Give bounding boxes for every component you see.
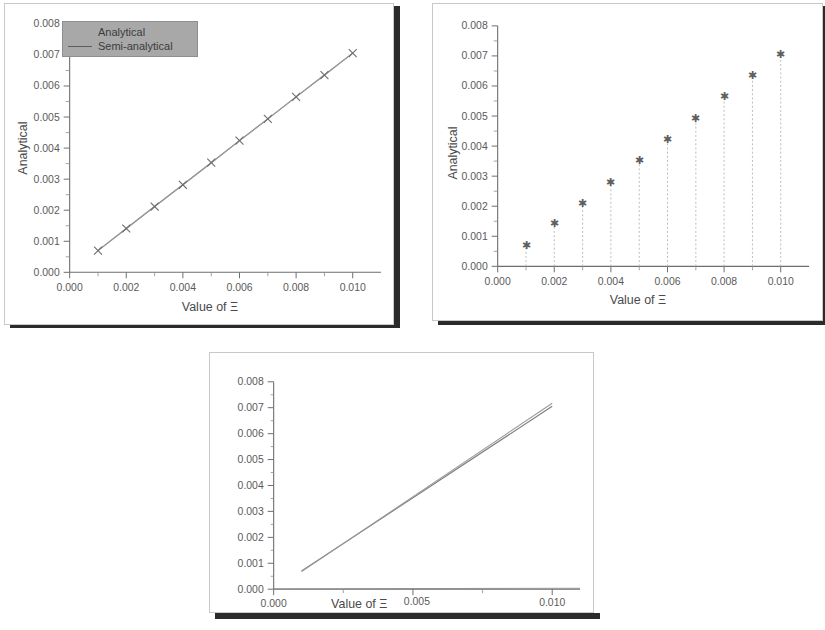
legend-entry: Semi-analytical <box>67 39 191 53</box>
y-ticklabel: 0.008 <box>34 18 60 29</box>
x-ticklabel: 0.004 <box>598 276 624 287</box>
y-ticklabel: 0.002 <box>34 205 60 216</box>
plot-area-3: 0.000 0.001 0.002 0.003 0.004 0.005 0.00… <box>210 353 593 612</box>
x-ticklabel: 0.002 <box>113 282 139 293</box>
svg-text:✱: ✱ <box>578 197 587 209</box>
y-ticklabel: 0.001 <box>34 236 60 247</box>
x-ticklabels-1: 0.000 0.002 0.004 0.006 0.008 0.010 <box>57 282 366 293</box>
y-ticklabel: 0.000 <box>238 584 264 595</box>
y-ticks-1 <box>64 24 70 272</box>
x-ticklabel: 0.008 <box>283 282 309 293</box>
svg-text:✱: ✱ <box>748 69 757 81</box>
y-ticklabels-1: 0.000 0.001 0.002 0.003 0.004 0.005 0.00… <box>34 18 60 277</box>
x-ticklabel: 0.010 <box>539 597 565 608</box>
y-ticklabel: 0.008 <box>462 20 488 31</box>
y-ticklabel: 0.003 <box>34 174 60 185</box>
y-ticklabel: 0.003 <box>462 171 488 182</box>
legend-label: Semi-analytical <box>98 40 173 52</box>
x-ticklabels-3: 0.000 0.005 0.010 <box>261 596 566 609</box>
y-ticklabel: 0.004 <box>238 480 264 491</box>
y-axis-title-2: Analytical <box>446 127 460 180</box>
svg-text:✱: ✱ <box>522 239 531 251</box>
y-ticklabel: 0.004 <box>34 143 60 154</box>
svg-text:✱: ✱ <box>663 133 672 145</box>
legend-entry: Analytical <box>67 25 191 39</box>
svg-text:✱: ✱ <box>635 154 644 166</box>
y-ticklabel: 0.002 <box>462 201 488 212</box>
y-ticklabel: 0.000 <box>462 261 488 272</box>
y-ticklabel: 0.006 <box>462 80 488 91</box>
y-axis-title-1: Analytical <box>16 122 30 175</box>
x-ticklabel: 0.000 <box>57 282 83 293</box>
chart-2-markers: ✱ ✱ ✱ ✱ ✱ ✱ ✱ ✱ ✱ ✱ <box>522 48 786 251</box>
chart-2-svg: 0.000 0.001 0.002 0.003 0.004 0.005 0.00… <box>433 4 822 320</box>
y-ticklabel: 0.005 <box>462 111 488 122</box>
y-ticklabel: 0.002 <box>238 532 264 543</box>
y-ticklabel: 0.007 <box>34 49 60 60</box>
y-ticklabel: 0.003 <box>238 506 264 517</box>
y-ticklabel: 0.000 <box>34 267 60 278</box>
x-ticklabel: 0.006 <box>226 282 252 293</box>
x-axis-title-3: Value of Ξ <box>331 597 387 611</box>
y-ticks-2 <box>492 26 498 266</box>
x-ticklabel: 0.002 <box>541 276 567 287</box>
x-ticklabels-2: 0.000 0.002 0.004 0.006 0.008 0.010 <box>485 276 794 287</box>
x-ticklabel: 0.000 <box>485 276 511 287</box>
y-ticklabel: 0.007 <box>238 402 264 413</box>
chart-1-series <box>94 49 357 254</box>
y-ticklabel: 0.001 <box>462 231 488 242</box>
x-ticks-2 <box>498 266 781 272</box>
x-ticklabel: 0.000 <box>261 598 287 609</box>
y-ticklabel: 0.005 <box>238 454 264 465</box>
y-ticklabel: 0.008 <box>238 376 264 387</box>
plot-area-2: 0.000 0.001 0.002 0.003 0.004 0.005 0.00… <box>433 4 822 320</box>
y-ticklabels-3: 0.000 0.001 0.002 0.003 0.004 0.005 0.00… <box>238 376 264 594</box>
chart-panel-3: 0.000 0.001 0.002 0.003 0.004 0.005 0.00… <box>209 352 594 613</box>
legend-label: Analytical <box>98 26 145 38</box>
chart-3-svg: 0.000 0.001 0.002 0.003 0.004 0.005 0.00… <box>210 353 593 612</box>
y-ticklabels-2: 0.000 0.001 0.002 0.003 0.004 0.005 0.00… <box>462 20 488 271</box>
chart-panel-1: 0.000 0.001 0.002 0.003 0.004 0.005 0.00… <box>4 3 394 325</box>
legend-marker-blank-icon <box>67 26 93 38</box>
chart-2-stems <box>526 54 781 266</box>
svg-text:✱: ✱ <box>720 90 729 102</box>
panel-3-shadow-bottom <box>215 613 600 619</box>
svg-text:✱: ✱ <box>550 217 559 229</box>
figure-page: { "figure": { "panel_count": 3, "backgro… <box>0 0 825 630</box>
chart-panel-2: 0.000 0.001 0.002 0.003 0.004 0.005 0.00… <box>432 3 823 321</box>
series-semi-analytical-line-1 <box>98 53 353 250</box>
y-ticklabel: 0.006 <box>238 428 264 439</box>
x-ticklabel: 0.004 <box>170 282 196 293</box>
x-ticklabel: 0.006 <box>654 276 680 287</box>
legend-marker-line-icon <box>67 40 93 52</box>
y-ticklabel: 0.007 <box>462 50 488 61</box>
x-axis-title-1: Value of Ξ <box>182 300 238 314</box>
y-ticklabel: 0.005 <box>34 112 60 123</box>
x-ticklabel: 0.005 <box>404 596 430 607</box>
x-ticklabel: 0.010 <box>768 276 794 287</box>
x-ticks-3 <box>274 589 553 595</box>
x-ticklabel: 0.010 <box>340 282 366 293</box>
y-ticklabel: 0.004 <box>462 141 488 152</box>
y-ticklabel: 0.006 <box>34 80 60 91</box>
y-ticklabel: 0.001 <box>238 558 264 569</box>
x-axis-title-2: Value of Ξ <box>610 293 666 307</box>
chart-1-legend: Analytical Semi-analytical <box>62 21 198 57</box>
svg-text:✱: ✱ <box>691 112 700 124</box>
x-ticks-1 <box>70 272 353 278</box>
chart-3-series <box>274 403 580 589</box>
svg-text:✱: ✱ <box>606 176 615 188</box>
y-ticks-3 <box>268 382 274 589</box>
svg-text:✱: ✱ <box>776 48 785 60</box>
series-semi-analytical-line-3 <box>302 403 553 571</box>
x-ticklabel: 0.008 <box>711 276 737 287</box>
panel-1-shadow-right <box>394 6 400 328</box>
